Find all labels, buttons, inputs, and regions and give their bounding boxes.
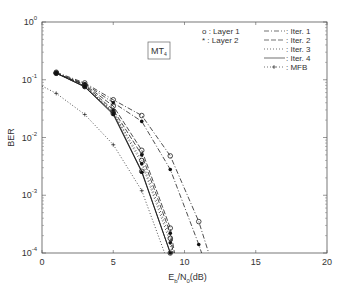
x-tick-label: 0 bbox=[39, 257, 44, 267]
star-marker bbox=[168, 241, 172, 245]
x-axis-label: Eb/N0(dB) bbox=[168, 272, 207, 284]
legend-line-item: : MFB bbox=[286, 63, 307, 72]
x-tick-label: 10 bbox=[179, 257, 189, 267]
star-marker bbox=[111, 113, 115, 117]
star-marker bbox=[140, 153, 144, 157]
ber-chart: 0510152010010-110-210-310-4Eb/N0(dB)BERM… bbox=[0, 0, 341, 288]
series-line bbox=[42, 86, 165, 253]
series-iter-1-layer-2 bbox=[54, 71, 201, 253]
x-tick-label: 15 bbox=[251, 257, 261, 267]
series-iter-2-layer-2 bbox=[54, 71, 173, 253]
y-tick-label: 10-1 bbox=[22, 73, 38, 85]
series-line bbox=[56, 72, 208, 253]
legend-line-item: : Iter. 2 bbox=[286, 36, 311, 45]
series-mfb bbox=[42, 86, 165, 253]
star-marker bbox=[140, 170, 144, 174]
circle-marker bbox=[168, 154, 173, 159]
curves bbox=[42, 70, 209, 255]
star-marker bbox=[140, 162, 144, 166]
star-marker bbox=[168, 168, 172, 172]
series-iter-1-layer-1 bbox=[54, 70, 209, 253]
legend-marker-item: * : Layer 2 bbox=[202, 36, 239, 45]
series-iter-4-layer-2 bbox=[54, 71, 172, 254]
star-marker bbox=[83, 85, 87, 89]
legend-marker-item: o : Layer 1 bbox=[202, 27, 240, 36]
circle-marker bbox=[139, 148, 144, 153]
series-iter-3-layer-1 bbox=[54, 71, 173, 253]
y-tick-label: 10-2 bbox=[22, 131, 38, 143]
legend: o : Layer 1* : Layer 2: Iter. 1: Iter. 2… bbox=[202, 27, 311, 72]
y-tick-label: 10-3 bbox=[22, 188, 38, 200]
series-iter-2-layer-1 bbox=[54, 71, 175, 253]
legend-line-item: : Iter. 4 bbox=[286, 54, 311, 63]
star-marker bbox=[54, 71, 58, 75]
x-tick-label: 20 bbox=[322, 257, 332, 267]
star-marker bbox=[140, 120, 144, 124]
series-line bbox=[56, 73, 201, 253]
star-marker bbox=[168, 251, 172, 255]
x-tick-label: 5 bbox=[111, 257, 116, 267]
star-marker bbox=[197, 243, 201, 247]
circle-marker bbox=[139, 113, 144, 118]
plot-frame bbox=[42, 22, 327, 253]
legend-line-item: : Iter. 3 bbox=[286, 45, 311, 54]
y-axis-label: BER bbox=[6, 128, 16, 147]
series-iter-4-layer-1 bbox=[54, 71, 173, 255]
y-tick-label: 10-4 bbox=[22, 246, 38, 258]
y-tick-label: 100 bbox=[24, 15, 38, 27]
series-iter-3-layer-2 bbox=[54, 71, 172, 253]
legend-line-item: : Iter. 1 bbox=[286, 27, 311, 36]
